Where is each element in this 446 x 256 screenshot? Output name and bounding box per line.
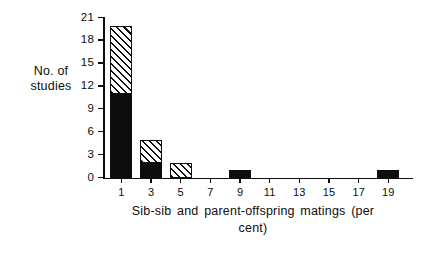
bar <box>229 170 251 178</box>
x-axis-tick-label: 17 <box>349 187 369 198</box>
bar <box>110 26 132 178</box>
x-axis-tick <box>121 178 122 183</box>
chart-figure: No. of studies 036912151821 135791113151… <box>0 0 446 256</box>
x-axis-tick <box>210 178 211 183</box>
x-axis-tick-label: 5 <box>171 187 191 198</box>
y-axis-tick-label: 6 <box>74 126 94 138</box>
bar-segment-hatched <box>170 163 192 178</box>
y-axis-tick-label: 9 <box>74 103 94 115</box>
bar <box>377 170 399 178</box>
bar-segment-hatched <box>140 140 162 163</box>
y-axis-tick <box>98 108 103 109</box>
y-axis-tick <box>98 85 103 86</box>
bar-segment-solid <box>110 94 132 178</box>
y-axis-tick-label: 18 <box>74 34 94 46</box>
x-axis-tick <box>150 178 151 183</box>
y-axis-tick <box>98 39 103 40</box>
y-axis-tick-label: 3 <box>74 149 94 161</box>
x-axis-tick-label: 15 <box>319 187 339 198</box>
bar-segment-solid <box>229 170 251 178</box>
x-axis-tick <box>358 178 359 183</box>
x-axis-tick <box>239 178 240 183</box>
y-axis-tick <box>98 177 103 178</box>
y-axis-tick <box>98 62 103 63</box>
y-axis-tick-label: 12 <box>74 80 94 92</box>
x-axis-tick <box>299 178 300 183</box>
bar-segment-solid <box>140 163 162 178</box>
x-axis-tick-label: 1 <box>111 187 131 198</box>
y-axis-tick <box>98 154 103 155</box>
x-axis-title-line-2: cent) <box>103 220 403 237</box>
y-axis-tick-label: 15 <box>74 57 94 69</box>
plot-area: 036912151821 135791113151719 <box>103 18 413 178</box>
x-axis-tick-label: 13 <box>289 187 309 198</box>
bar-segment-solid <box>377 170 399 178</box>
x-axis-tick-label: 7 <box>200 187 220 198</box>
x-axis-title-line-1: Sib-sib and parent-offspring matings (pe… <box>103 203 403 220</box>
x-axis-tick <box>269 178 270 183</box>
y-axis-tick <box>98 131 103 132</box>
y-axis-tick-label: 0 <box>74 172 94 184</box>
x-axis-tick-label: 9 <box>230 187 250 198</box>
x-axis-title: Sib-sib and parent-offspring matings (pe… <box>103 203 403 237</box>
x-axis-tick-label: 19 <box>378 187 398 198</box>
bar <box>170 163 192 178</box>
x-axis-tick-label: 3 <box>141 187 161 198</box>
bar-segment-hatched <box>110 26 132 95</box>
x-axis-tick-label: 11 <box>260 187 280 198</box>
x-axis-tick <box>388 178 389 183</box>
x-axis-tick <box>180 178 181 183</box>
y-axis-tick <box>98 17 103 18</box>
y-axis-tick-label: 21 <box>74 12 94 24</box>
bar <box>140 140 162 178</box>
x-axis-tick <box>328 178 329 183</box>
